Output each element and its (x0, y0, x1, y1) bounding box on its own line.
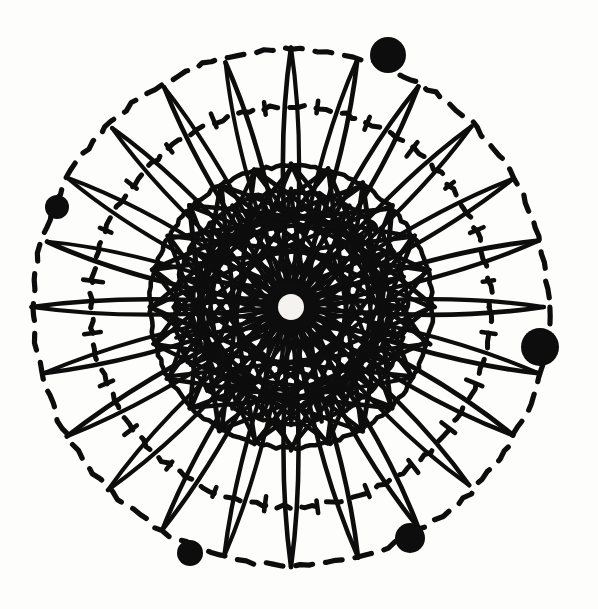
node-right[interactable] (521, 328, 559, 366)
radial-tick-16 (100, 381, 113, 386)
radial-tick-22 (211, 114, 217, 127)
figure-root (0, 0, 598, 609)
radial-tick-0 (317, 101, 319, 113)
node-left[interactable] (45, 195, 69, 219)
node-bottom-left[interactable] (177, 540, 203, 566)
radial-tick-7 (466, 380, 482, 387)
node-bottom-right[interactable] (395, 523, 425, 553)
radial-tick-19 (100, 228, 111, 233)
radial-tick-23 (264, 102, 266, 114)
radial-tick-17 (84, 332, 101, 334)
radial-tick-1 (364, 117, 369, 130)
hub-layer (265, 281, 317, 333)
node-top[interactable] (370, 37, 406, 73)
radial-tick-6 (482, 332, 496, 334)
hub-center-eye (278, 294, 304, 320)
radial-tick-11 (316, 501, 318, 513)
rosette-diagram (0, 0, 598, 609)
radial-tick-5 (483, 280, 494, 281)
radial-tick-18 (83, 280, 103, 283)
radial-tick-12 (264, 496, 266, 511)
